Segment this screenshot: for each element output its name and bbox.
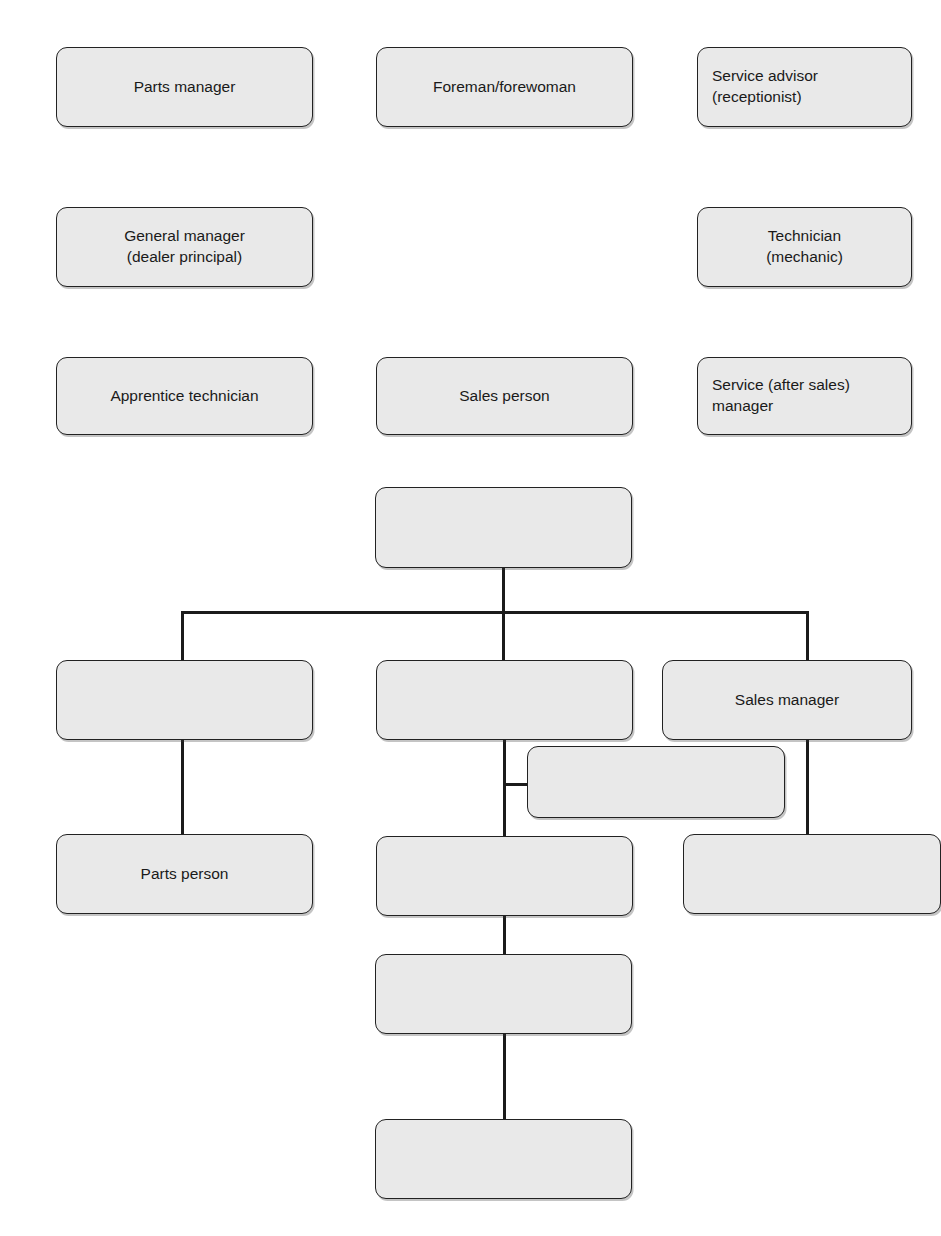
word-bank-box-service-after-sales-manager[interactable]: Service (after sales) manager: [697, 357, 912, 435]
org-node-middle-child[interactable]: [376, 836, 633, 916]
word-bank-box-apprentice-technician[interactable]: Apprentice technician: [56, 357, 313, 435]
word-bank-label-foreman-forewoman: Foreman/forewoman: [433, 77, 576, 98]
word-bank-box-general-manager[interactable]: General manager (dealer principal): [56, 207, 313, 287]
org-node-branch-right-label: Sales manager: [735, 690, 839, 711]
org-node-middle-great-grandchild[interactable]: [375, 1119, 632, 1199]
connector-bar-to-branch-right: [806, 611, 809, 661]
connector-root-to-bar: [502, 568, 505, 614]
connector-bar-to-branch-left: [181, 611, 184, 661]
org-node-left-child[interactable]: Parts person: [56, 834, 313, 914]
word-bank-label-general-manager: General manager (dealer principal): [124, 226, 245, 267]
page-top-caption: [0, 0, 941, 5]
word-bank-label-apprentice-technician: Apprentice technician: [110, 386, 258, 407]
org-node-branch-right[interactable]: Sales manager: [662, 660, 912, 740]
connector-branch-middle-to-middle-child: [503, 740, 506, 836]
org-node-right-child[interactable]: [683, 834, 941, 914]
word-bank-box-technician[interactable]: Technician (mechanic): [697, 207, 912, 287]
word-bank-label-parts-manager: Parts manager: [134, 77, 236, 98]
org-node-offset[interactable]: [527, 746, 785, 818]
word-bank-box-service-advisor[interactable]: Service advisor (receptionist): [697, 47, 912, 127]
connector-branch-left-to-left-child: [181, 740, 184, 834]
org-node-left-child-label: Parts person: [141, 864, 229, 885]
org-node-branch-middle[interactable]: [376, 660, 633, 740]
word-bank-label-service-after-sales-manager: Service (after sales) manager: [712, 375, 850, 416]
org-node-root[interactable]: [375, 487, 632, 568]
connector-horizontal-bar: [181, 611, 809, 614]
word-bank-box-foreman-forewoman[interactable]: Foreman/forewoman: [376, 47, 633, 127]
connector-bar-to-branch-middle: [502, 611, 505, 661]
word-bank-label-sales-person: Sales person: [459, 386, 549, 407]
connector-branch-right-to-right-child: [806, 740, 809, 834]
org-node-middle-grandchild[interactable]: [375, 954, 632, 1034]
word-bank-box-parts-manager[interactable]: Parts manager: [56, 47, 313, 127]
org-node-branch-left[interactable]: [56, 660, 313, 740]
word-bank-box-sales-person[interactable]: Sales person: [376, 357, 633, 435]
connector-grandchild-to-great-grandchild: [503, 1032, 506, 1120]
word-bank-label-technician: Technician (mechanic): [766, 226, 843, 267]
word-bank-label-service-advisor: Service advisor (receptionist): [712, 66, 818, 107]
org-chart-page: Parts manager Foreman/forewoman Service …: [0, 0, 941, 1236]
